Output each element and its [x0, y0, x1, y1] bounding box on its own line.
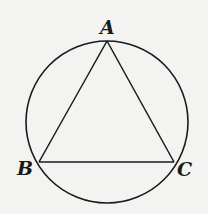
vertex-label-c: C — [177, 160, 192, 179]
vertex-label-b: B — [17, 159, 33, 178]
segment-ac — [107, 41, 174, 162]
segment-ab — [39, 41, 107, 162]
diagram-canvas: A B C — [0, 0, 208, 214]
vertex-label-a: A — [100, 18, 115, 37]
circumscribed-circle — [26, 41, 188, 203]
